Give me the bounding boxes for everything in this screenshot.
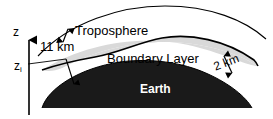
earth-label: Earth bbox=[140, 83, 171, 95]
zi-axis-label-subscript: i bbox=[20, 65, 22, 74]
troposphere-depth-label: 11 km bbox=[40, 40, 74, 53]
z-axis-label: z bbox=[13, 26, 19, 38]
zi-axis-label: zi bbox=[14, 60, 22, 74]
figure-canvas: Troposphere 11 km Boundary Layer 2 km Ea… bbox=[0, 0, 273, 119]
boundary-layer-label: Boundary Layer bbox=[107, 52, 199, 65]
troposphere-label: Troposphere bbox=[75, 24, 148, 37]
